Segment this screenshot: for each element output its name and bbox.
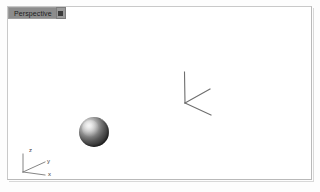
- viewport-menu-icon: [58, 11, 63, 16]
- viewport-label-tab[interactable]: Perspective: [8, 7, 66, 19]
- wireframe-object[interactable]: [180, 69, 222, 117]
- perspective-viewport[interactable]: z y x: [7, 6, 312, 180]
- viewport-menu-button[interactable]: [56, 7, 66, 19]
- sphere-specular-highlight: [82, 120, 99, 137]
- axis-gizmo-lines: [17, 146, 61, 180]
- sphere-terminator-arc: [79, 117, 109, 147]
- sphere-object[interactable]: [79, 117, 109, 147]
- 3d-scene[interactable]: z y x: [8, 7, 311, 179]
- axis-label-z: z: [29, 147, 32, 153]
- axis-label-x: x: [48, 171, 51, 177]
- world-axis-gizmo: z y x: [17, 146, 61, 180]
- viewport-name-label[interactable]: Perspective: [8, 7, 56, 19]
- app-root: z y x Perspective: [0, 0, 320, 192]
- axis-label-y: y: [47, 158, 50, 164]
